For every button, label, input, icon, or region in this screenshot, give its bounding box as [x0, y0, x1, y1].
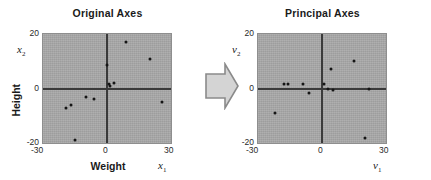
data-point: [148, 57, 151, 60]
y-axis-symbol: v2: [232, 44, 240, 58]
data-point: [329, 68, 332, 71]
x-axis-symbol-sub: 1: [378, 166, 382, 174]
data-point: [84, 95, 87, 98]
data-point: [74, 139, 77, 142]
scatter-plot-principal: [257, 33, 387, 144]
y-axis-symbol-sub: 2: [237, 50, 241, 58]
data-point: [331, 88, 334, 91]
data-point: [161, 101, 164, 104]
panel-title-principal: Principal Axes: [215, 7, 430, 19]
data-point: [301, 83, 304, 86]
y-tick-top: 20: [235, 29, 254, 38]
x-axis-symbol-sub: 1: [163, 166, 167, 174]
y-axis-label-height: Height: [11, 69, 22, 131]
data-point: [125, 41, 128, 44]
data-point: [274, 112, 277, 115]
horizontal-axis-line: [43, 88, 171, 90]
data-point: [308, 91, 311, 94]
panel-title-original: Original Axes: [0, 7, 215, 19]
y-axis-symbol-sub: 2: [22, 50, 26, 58]
x-axis-symbol: v1: [373, 160, 381, 174]
panel-principal-axes: Principal Axes 20 0 -20 -30 0 30 v2 v1: [215, 0, 430, 180]
x-axis-label-weight: Weight: [77, 161, 139, 172]
data-point: [282, 83, 285, 86]
pca-axes-figure: Original Axes 20 0 -20 -30 0 30 x2 x1 He…: [0, 0, 431, 180]
y-axis-symbol: x2: [17, 44, 25, 58]
data-point: [109, 85, 112, 88]
data-point: [323, 83, 326, 86]
data-point: [327, 87, 330, 90]
data-point: [113, 82, 116, 85]
data-point: [367, 87, 370, 90]
x-tick-zero: 0: [103, 146, 108, 155]
data-point: [286, 83, 289, 86]
x-tick-right: 30: [164, 146, 173, 155]
data-point: [353, 60, 356, 63]
data-point: [93, 98, 96, 101]
scatter-plot-original: [42, 33, 172, 144]
x-tick-left: -30: [31, 146, 43, 155]
x-tick-zero: 0: [318, 146, 323, 155]
x-axis-symbol: x1: [158, 160, 166, 174]
y-tick-zero: 0: [235, 84, 254, 93]
x-tick-right: 30: [379, 146, 388, 155]
data-point: [65, 106, 68, 109]
data-point: [69, 103, 72, 106]
x-tick-left: -30: [246, 146, 258, 155]
data-point: [106, 64, 109, 67]
panel-original-axes: Original Axes 20 0 -20 -30 0 30 x2 x1 He…: [0, 0, 215, 180]
y-tick-top: 20: [20, 29, 39, 38]
y-tick-zero: 0: [20, 84, 39, 93]
data-point: [363, 136, 366, 139]
